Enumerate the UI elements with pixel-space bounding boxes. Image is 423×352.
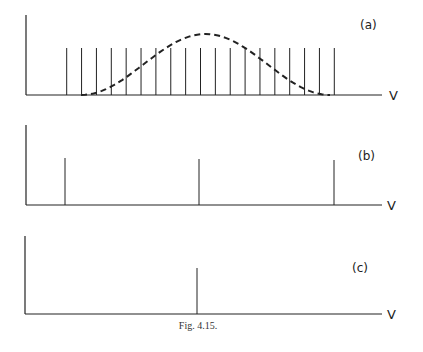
panel-c: (c)V <box>25 236 396 322</box>
panel-label: (a) <box>360 18 377 32</box>
figure-canvas: (a)V (b)V (c)V Fig. 4.15. <box>0 0 423 352</box>
axis-label-v: V <box>389 88 398 103</box>
figure-caption: Fig. 4.15. <box>179 320 217 331</box>
axis-label-v: V <box>387 307 396 322</box>
dashed-envelope-curve <box>81 34 330 95</box>
axis-label-v: V <box>387 198 396 213</box>
panel-a: (a)V <box>26 15 398 103</box>
panel-label: (c) <box>352 261 368 275</box>
panel-b: (b)V <box>26 125 396 213</box>
panel-label: (b) <box>358 149 375 163</box>
